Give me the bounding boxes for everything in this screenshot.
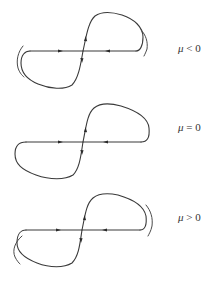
mu-symbol: μ bbox=[178, 121, 184, 133]
upper-right-loop bbox=[83, 104, 149, 142]
threshold-value: 0 bbox=[195, 211, 201, 223]
upper-right-loop bbox=[83, 13, 143, 52]
label-mu-negative: μ < 0 bbox=[178, 43, 201, 54]
relation-symbol: < bbox=[186, 42, 192, 54]
threshold-value: 0 bbox=[195, 121, 201, 133]
outer-arc-right bbox=[146, 205, 152, 236]
relation-symbol: > bbox=[186, 211, 192, 223]
mu-symbol: μ bbox=[178, 42, 184, 54]
arrow-right-icon bbox=[58, 141, 63, 144]
panel-mu-negative bbox=[17, 13, 147, 89]
arrow-left-icon bbox=[103, 141, 108, 144]
arrow-up-icon bbox=[84, 36, 87, 41]
mu-symbol: μ bbox=[178, 211, 184, 223]
arrow-up-icon bbox=[84, 127, 87, 132]
lower-left-loop bbox=[17, 230, 82, 267]
threshold-value: 0 bbox=[195, 42, 201, 54]
upper-right-loop bbox=[82, 194, 146, 230]
arrow-up-icon bbox=[83, 215, 86, 220]
arrow-left-icon bbox=[105, 50, 110, 53]
arrow-right-icon bbox=[58, 50, 63, 53]
relation-symbol: = bbox=[186, 121, 192, 133]
panel-mu-zero bbox=[15, 104, 149, 179]
outer-arc-left bbox=[14, 236, 22, 264]
lower-left-loop bbox=[15, 142, 83, 179]
label-mu-zero: μ = 0 bbox=[178, 122, 201, 133]
lower-left-loop bbox=[21, 51, 83, 88]
panel-mu-positive bbox=[14, 194, 152, 267]
arrow-right-icon bbox=[56, 229, 61, 232]
arrow-left-icon bbox=[102, 229, 107, 232]
label-mu-positive: μ > 0 bbox=[178, 212, 201, 223]
